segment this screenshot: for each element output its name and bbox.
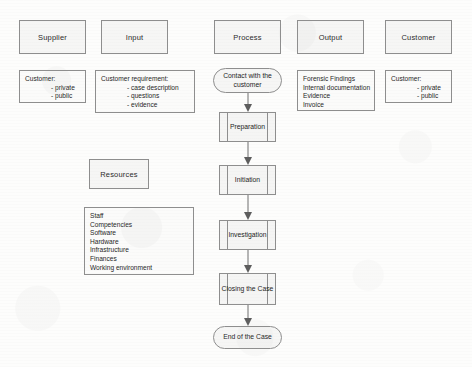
column-header-output-label: Output <box>319 33 343 42</box>
flow-start-terminator: Contact with the customer <box>213 68 282 93</box>
flow-step-preparation: Preparation <box>219 112 276 142</box>
column-header-input-label: Input <box>126 33 144 42</box>
column-header-process-label: Process <box>233 33 262 42</box>
column-header-input: Input <box>101 20 168 54</box>
flow-step-initiation: Initiation <box>219 165 276 195</box>
input-detail-item: - evidence <box>101 101 189 110</box>
input-detail-item: - questions <box>101 92 189 101</box>
resources-list-item: Staff <box>90 212 188 221</box>
column-header-customer-label: Customer <box>401 33 435 42</box>
supplier-detail-heading: Customer: <box>25 75 80 84</box>
customer-detail-heading: Customer: <box>391 75 446 84</box>
customer-detail-item: - private <box>391 84 446 93</box>
resources-list-item: Finances <box>90 255 188 264</box>
supplier-detail-item: - private <box>25 84 80 93</box>
flow-step-investigation-label: Investigation <box>228 231 266 239</box>
flow-step-closing-the-case: Closing the Case <box>219 273 276 305</box>
flow-step-preparation-label: Preparation <box>230 123 265 131</box>
column-header-output: Output <box>297 20 364 54</box>
connector-start-to-preparation <box>240 93 256 113</box>
resources-header-label: Resources <box>100 170 138 179</box>
column-header-customer: Customer <box>385 20 452 54</box>
flow-step-initiation-label: Initiation <box>235 176 260 184</box>
flow-start-label: Contact with the customer <box>214 72 281 89</box>
resources-list-box: Staff Competencies Software Hardware Inf… <box>84 207 194 275</box>
column-header-supplier-label: Supplier <box>38 33 67 42</box>
sipoc-diagram-canvas: Supplier Input Process Output Customer C… <box>0 0 472 367</box>
column-header-process: Process <box>214 20 281 54</box>
connector-investigation-to-closing <box>240 250 256 274</box>
input-detail-heading: Customer requirement: <box>101 75 189 84</box>
flow-step-closing-the-case-label: Closing the Case <box>222 285 274 293</box>
flow-end-terminator: End of the Case <box>213 326 282 349</box>
output-detail-box: Forensic Findings Internal documentation… <box>297 70 375 111</box>
output-detail-item: Invoice <box>303 101 369 110</box>
resources-header-box: Resources <box>89 159 149 189</box>
output-detail-item: Forensic Findings <box>303 75 369 84</box>
resources-list-item: Software <box>90 229 188 238</box>
output-detail-item: Internal documentation <box>303 84 369 93</box>
input-detail-box: Customer requirement: - case description… <box>95 70 195 113</box>
input-detail-item: - case description <box>101 84 189 93</box>
connector-closing-to-end <box>240 305 256 327</box>
output-detail-item: Evidence <box>303 92 369 101</box>
supplier-detail-item: - public <box>25 92 80 101</box>
supplier-detail-box: Customer: - private - public <box>19 70 86 103</box>
resources-list-item: Working environment <box>90 264 188 273</box>
flow-step-investigation: Investigation <box>219 220 276 250</box>
column-header-supplier: Supplier <box>19 20 86 54</box>
resources-list-item: Competencies <box>90 221 188 230</box>
flow-end-label: End of the Case <box>223 333 272 341</box>
connector-preparation-to-initiation <box>240 142 256 166</box>
connector-initiation-to-investigation <box>240 195 256 221</box>
resources-list-item: Infrastructure <box>90 246 188 255</box>
resources-list-item: Hardware <box>90 238 188 247</box>
customer-detail-box: Customer: - private - public <box>385 70 452 103</box>
customer-detail-item: - public <box>391 92 446 101</box>
